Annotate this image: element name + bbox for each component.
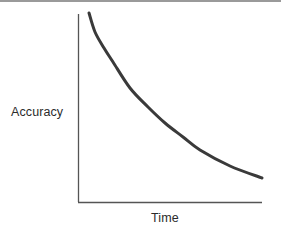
chart-figure: Accuracy Time xyxy=(0,0,281,237)
x-axis-label: Time xyxy=(151,211,179,225)
y-axis-label: Accuracy xyxy=(11,105,63,119)
accuracy-decay-curve xyxy=(89,13,262,178)
